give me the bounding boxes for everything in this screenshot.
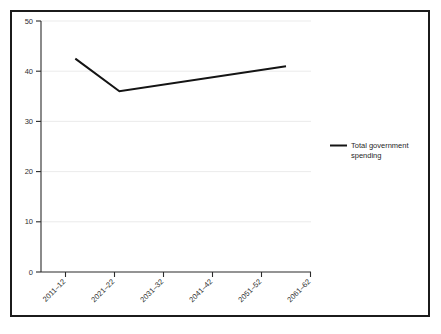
y-tick-label-10: 10	[25, 217, 33, 226]
legend-label-line2: spending	[351, 151, 381, 160]
y-tick-label-20: 20	[25, 167, 33, 176]
x-tick-label-6: 2061–62	[285, 277, 312, 304]
x-tick-label-4: 2041–42	[187, 277, 214, 304]
gridlines	[41, 21, 311, 222]
line-chart: 50 40 30 20 10 0 2011–12 2021–22 2031–32…	[0, 0, 441, 334]
y-tick-label-40: 40	[25, 67, 33, 76]
chart-figure: 50 40 30 20 10 0 2011–12 2021–22 2031–32…	[0, 0, 441, 334]
y-axis: 50 40 30 20 10 0	[25, 17, 41, 277]
x-axis: 2011–12 2021–22 2031–32 2041–42 2051–52 …	[41, 272, 313, 304]
x-tick-label-3: 2031–32	[138, 277, 165, 304]
x-tick-label-2: 2021–22	[89, 277, 116, 304]
legend-label-line1: Total government	[351, 141, 409, 150]
x-tick-label-5: 2051–52	[236, 277, 263, 304]
chart-legend: Total government spending	[330, 141, 409, 159]
series-total-government-spending	[75, 59, 286, 92]
x-tick-label-1: 2011–12	[41, 277, 68, 304]
y-tick-label-30: 30	[25, 117, 33, 126]
y-tick-label-0: 0	[29, 268, 33, 277]
y-tick-label-50: 50	[25, 17, 33, 26]
series-line-total-government-spending	[75, 59, 286, 92]
